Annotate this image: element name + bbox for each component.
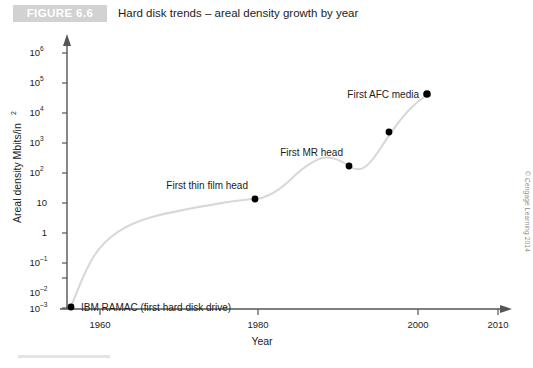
y-tick-label-1e6: 10 [29, 47, 40, 58]
annotation-first-mr-head: First MR head [280, 147, 343, 158]
y-tick-exp-minus2: –2 [40, 285, 48, 292]
y-tick-label-1e3: 10 [29, 137, 40, 148]
x-tick-label-2000: 2000 [407, 319, 428, 330]
y-tick-label-1e5: 10 [29, 77, 40, 88]
y-axis-ticks [62, 53, 67, 308]
y-tick-exp-minus3: –3 [40, 301, 48, 308]
figure-header: FIGURE 6.6 Hard disk trends – areal dens… [0, 0, 533, 30]
figure-title: Hard disk trends – areal density growth … [118, 5, 358, 22]
y-tick-label-1e2: 10 [29, 167, 40, 178]
y-axis-title: Areal density Mbits/in 2 [10, 111, 23, 223]
x-tick-label-2010: 2010 [487, 319, 508, 330]
y-tick-label-1e4: 10 [29, 107, 40, 118]
trend-curve [71, 94, 428, 307]
y-axis-title-text: Areal density Mbits/in [11, 123, 23, 223]
x-axis-title: Year [251, 335, 273, 346]
figure-number-badge: FIGURE 6.6 [13, 5, 107, 22]
areal-density-chart: 10 6 10 5 10 4 10 3 10 2 10 1 10 –1 10 –… [0, 28, 533, 346]
data-point-unlabeled[interactable] [386, 129, 393, 136]
y-tick-exp-4: 4 [40, 105, 44, 112]
data-point-first-afc-media[interactable] [423, 90, 431, 98]
annotation-first-afc-media: First AFC media [347, 89, 419, 100]
x-axis-tick-labels: 1960 1980 2000 2010 [89, 319, 508, 330]
y-tick-exp-5: 5 [40, 75, 44, 82]
y-tick-label-1e-2: 10 [29, 287, 40, 298]
y-tick-exp-minus1: –1 [40, 255, 48, 262]
annotation-first-thin-film-head: First thin film head [166, 180, 248, 191]
y-tick-label-1: 1 [42, 227, 47, 238]
y-axis-title-superscript: 2 [10, 111, 17, 115]
chart-plot-area: 10 6 10 5 10 4 10 3 10 2 10 1 10 –1 10 –… [0, 28, 533, 346]
copyright-credit: © Cengage Learning 2014 [524, 171, 531, 252]
y-tick-label-1e-1: 10 [29, 257, 40, 268]
y-tick-exp-2: 2 [40, 165, 44, 172]
y-tick-exp-6: 6 [40, 45, 44, 52]
data-point-first-mr-head[interactable] [346, 163, 353, 170]
data-point-first-thin-film-head[interactable] [252, 196, 259, 203]
x-tick-label-1960: 1960 [89, 319, 110, 330]
x-tick-label-1980: 1980 [247, 319, 268, 330]
y-axis-arrow [63, 34, 71, 46]
y-tick-label-10: 10 [36, 197, 47, 208]
annotation-ibm-ramac: IBM RAMAC (first hard disk drive) [81, 302, 231, 313]
y-axis-tick-labels: 10 6 10 5 10 4 10 3 10 2 10 1 10 –1 10 –… [29, 45, 47, 314]
y-axis [63, 34, 71, 309]
data-point-annotations: IBM RAMAC (first hard disk drive) First … [81, 89, 419, 313]
x-axis-arrow [500, 305, 512, 313]
y-tick-exp-3: 3 [40, 135, 44, 142]
bottom-divider [18, 355, 110, 358]
data-point-ibm-ramac[interactable] [68, 304, 75, 311]
y-tick-label-1e-3: 10 [29, 303, 40, 314]
